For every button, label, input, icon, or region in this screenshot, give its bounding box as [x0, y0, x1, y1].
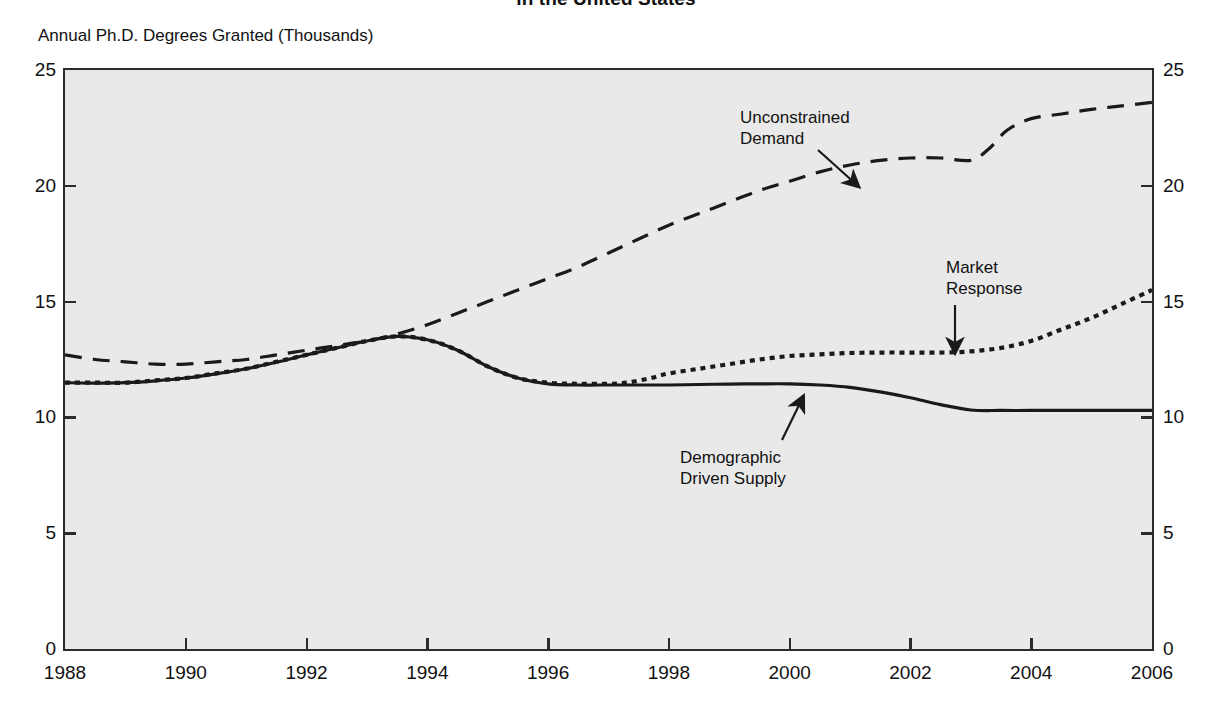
y-tick-mark-left-20 [63, 185, 76, 188]
series-curves [65, 70, 1152, 649]
callout-demographic-driven-supply: Demographic Driven Supply [680, 448, 786, 489]
x-tick-label-1996: 1996 [508, 662, 588, 684]
y-tick-mark-left-15 [63, 301, 76, 304]
y-tick-label-right-0: 0 [1163, 638, 1205, 660]
y-tick-label-left-25: 25 [14, 59, 56, 81]
x-tick-label-2006: 2006 [1112, 662, 1192, 684]
x-tick-label-2004: 2004 [991, 662, 1071, 684]
callout-unconstrained-demand: Unconstrained Demand [740, 108, 850, 149]
x-tick-label-1994: 1994 [387, 662, 467, 684]
callout-market-response: Market Response [946, 258, 1023, 299]
x-tick-mark-2002 [909, 638, 912, 651]
phd-degrees-chart-figure: in the United States Annual Ph.D. Degree… [0, 0, 1212, 721]
series-line-demographic-driven-supply [65, 336, 1152, 410]
callout-unconstrained-demand-line2: Demand [740, 129, 850, 150]
y-tick-label-left-15: 15 [14, 291, 56, 313]
y-tick-label-right-15: 15 [1163, 291, 1205, 313]
x-tick-mark-1990 [185, 638, 188, 651]
y-tick-mark-right-10 [1141, 416, 1154, 419]
callout-demographic-line1: Demographic [680, 448, 786, 469]
x-tick-label-1990: 1990 [146, 662, 226, 684]
y-tick-label-left-20: 20 [14, 175, 56, 197]
x-tick-label-2002: 2002 [870, 662, 950, 684]
y-tick-mark-right-20 [1141, 185, 1154, 188]
series-line-unconstrained-demand [65, 102, 1152, 364]
callout-market-response-line2: Response [946, 279, 1023, 300]
series-line-market-response [65, 290, 1152, 384]
callout-unconstrained-demand-line1: Unconstrained [740, 108, 850, 129]
y-tick-mark-right-15 [1141, 301, 1154, 304]
x-tick-label-2000: 2000 [750, 662, 830, 684]
x-tick-mark-1994 [426, 638, 429, 651]
y-tick-label-left-5: 5 [14, 522, 56, 544]
x-tick-label-1998: 1998 [629, 662, 709, 684]
x-tick-mark-2000 [789, 638, 792, 651]
figure-title: in the United States [0, 0, 1212, 10]
x-tick-mark-1998 [668, 638, 671, 651]
y-tick-label-right-20: 20 [1163, 175, 1205, 197]
callout-market-response-line1: Market [946, 258, 1023, 279]
y-tick-label-left-10: 10 [14, 406, 56, 428]
y-tick-mark-left-10 [63, 416, 76, 419]
y-tick-mark-left-5 [63, 532, 76, 535]
y-tick-label-right-5: 5 [1163, 522, 1205, 544]
y-tick-label-left-0: 0 [14, 638, 56, 660]
y-tick-mark-right-5 [1141, 532, 1154, 535]
y-tick-label-right-25: 25 [1163, 59, 1205, 81]
x-tick-label-1988: 1988 [25, 662, 105, 684]
callout-demographic-line2: Driven Supply [680, 469, 786, 490]
x-tick-mark-1992 [306, 638, 309, 651]
x-tick-label-1992: 1992 [267, 662, 347, 684]
y-tick-label-right-10: 10 [1163, 406, 1205, 428]
y-axis-caption: Annual Ph.D. Degrees Granted (Thousands) [38, 26, 373, 46]
plot-area [63, 68, 1154, 651]
x-tick-mark-2004 [1030, 638, 1033, 651]
x-tick-mark-1996 [547, 638, 550, 651]
